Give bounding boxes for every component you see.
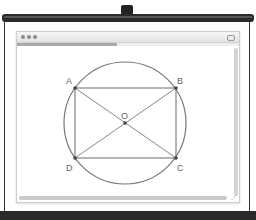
point-a	[73, 86, 77, 90]
geometry-diagram: A B C D O	[0, 0, 256, 220]
label-d: D	[66, 163, 73, 173]
label-c: C	[177, 163, 184, 173]
label-a: A	[66, 76, 72, 86]
label-b: B	[177, 76, 183, 86]
point-d	[73, 156, 77, 160]
point-o	[123, 121, 127, 125]
label-o: O	[121, 111, 128, 121]
point-c	[174, 156, 178, 160]
point-b	[174, 86, 178, 90]
